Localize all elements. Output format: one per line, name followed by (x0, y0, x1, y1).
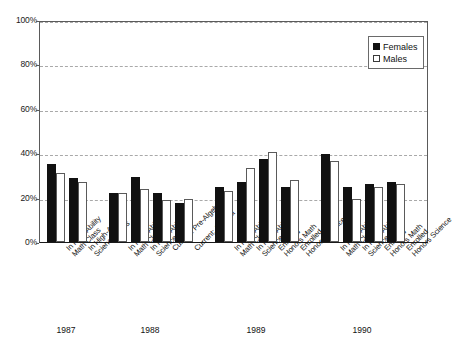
bar (374, 187, 383, 243)
legend-item: Females (373, 41, 418, 52)
y-tick-label: 100% (1, 16, 37, 25)
legend-label: Females (383, 42, 418, 52)
bar (396, 184, 405, 242)
bar (118, 193, 127, 242)
bar (175, 203, 184, 242)
y-tick-label: 80% (1, 60, 37, 69)
bar (352, 199, 361, 242)
bar (78, 182, 87, 242)
bar (268, 152, 277, 242)
bar (246, 168, 255, 242)
bar (321, 154, 330, 242)
gridline (40, 111, 427, 112)
bar (330, 161, 339, 242)
bar (109, 193, 118, 242)
bar (237, 182, 246, 242)
bar (281, 187, 290, 243)
bar (343, 187, 352, 243)
bar (184, 199, 193, 242)
x-axis-category-labels: In High-AbilityMath ClassIn High-Ability… (0, 243, 436, 323)
plot-area: FemalesMales (39, 21, 428, 243)
gridline (40, 155, 427, 156)
bar (387, 182, 396, 242)
bar (215, 187, 224, 243)
x-axis-group-label: 1988 (120, 325, 180, 335)
x-axis-group-label: 1990 (332, 325, 392, 335)
y-tick-label: 60% (1, 105, 37, 114)
bar (56, 173, 65, 242)
x-axis-group-label: 1987 (36, 325, 96, 335)
legend: FemalesMales (368, 36, 424, 69)
x-axis-group-label: 1989 (226, 325, 286, 335)
bar (140, 189, 149, 242)
bar (153, 193, 162, 242)
y-tick-label: 20% (1, 194, 37, 203)
bar (365, 184, 374, 242)
gridline (40, 22, 427, 23)
legend-swatch-icon (373, 55, 380, 62)
legend-item: Males (373, 53, 418, 64)
bar (162, 200, 171, 242)
legend-label: Males (383, 54, 407, 64)
y-tick-label: 40% (1, 149, 37, 158)
bar (131, 177, 140, 242)
bar (47, 164, 56, 242)
bar (290, 180, 299, 242)
x-axis-group-labels: 1987198819891990 (0, 325, 436, 341)
bar (69, 178, 78, 242)
legend-swatch-icon (373, 43, 380, 50)
bar (259, 159, 268, 242)
bar (224, 191, 233, 242)
